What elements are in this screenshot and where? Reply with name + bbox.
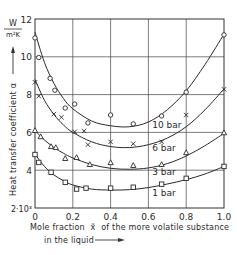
- y-tick-label: 8: [26, 90, 32, 100]
- circle-marker-icon: [37, 55, 41, 59]
- x-tick-label: 0.2: [66, 212, 80, 222]
- fitted-curves: [35, 32, 224, 190]
- triangle-marker-icon: [131, 163, 136, 168]
- triangle-marker-icon: [159, 162, 164, 167]
- curve-6-bar: [35, 79, 224, 147]
- x-label-symbol: x̃: [91, 223, 96, 232]
- x-tick-label: 0: [32, 212, 38, 222]
- series-label: 6 bar: [152, 143, 176, 153]
- cross-marker-icon: [131, 142, 135, 146]
- square-marker-icon: [63, 180, 67, 184]
- triangle-marker-icon: [32, 128, 37, 133]
- square-marker-icon: [131, 185, 135, 189]
- circle-marker-icon: [53, 88, 57, 92]
- triangle-marker-icon: [108, 160, 113, 165]
- triangle-marker-icon: [74, 155, 79, 160]
- circle-marker-icon: [131, 122, 135, 126]
- x-axis-arrow-icon: [95, 238, 125, 242]
- series-label: 1 bar: [152, 188, 176, 198]
- square-marker-icon: [49, 170, 53, 174]
- y-tick-label: 12: [21, 15, 32, 25]
- square-marker-icon: [108, 186, 112, 190]
- x-axis-label-line1: Mole fraction x̃ of the more volatile su…: [30, 223, 229, 232]
- triangle-marker-icon: [63, 156, 68, 161]
- cross-marker-icon: [86, 142, 90, 146]
- y-tick-label: 6: [26, 128, 32, 138]
- curve-3-bar: [35, 131, 224, 170]
- y-axis-unit: W m²K: [4, 19, 22, 39]
- y-unit-numerator: W: [9, 19, 17, 28]
- y-unit-denominator: m²K: [6, 31, 21, 39]
- circle-marker-icon: [33, 36, 37, 40]
- x-label-rest: of the more volatile substance: [101, 223, 229, 232]
- square-marker-icon: [84, 186, 88, 190]
- circle-marker-icon: [184, 90, 188, 94]
- circle-marker-icon: [159, 114, 163, 118]
- square-marker-icon: [159, 182, 163, 186]
- y-tick-label: 2·10³: [11, 205, 32, 214]
- x-tick-label: 0.4: [103, 212, 118, 222]
- series-label: 3 bar: [152, 167, 176, 177]
- x-tick-label: 1.0: [217, 212, 232, 222]
- series-label: 10 bar: [152, 120, 182, 130]
- y-tick-label: 10: [21, 52, 33, 62]
- circle-marker-icon: [48, 76, 52, 80]
- x-tick-label: 0.8: [179, 212, 194, 222]
- x-label-start: Mole fraction: [30, 223, 85, 232]
- curve-10-bar: [35, 32, 224, 127]
- axis-tick-labels: 00.20.40.60.81.02·10³4681012: [11, 15, 231, 223]
- square-marker-icon: [184, 176, 188, 180]
- square-marker-icon: [37, 160, 41, 164]
- heat-transfer-chart: 00.20.40.60.81.02·10³4681012 10 bar6 bar…: [0, 0, 237, 255]
- x-tick-label: 0.6: [141, 212, 156, 222]
- circle-marker-icon: [108, 113, 112, 117]
- circle-marker-icon: [222, 33, 226, 37]
- circle-marker-icon: [63, 106, 67, 110]
- cross-marker-icon: [52, 112, 56, 116]
- circle-marker-icon: [72, 102, 76, 106]
- x-axis-label-line2: in the liquid: [44, 236, 94, 245]
- square-marker-icon: [74, 187, 78, 191]
- y-axis-arrow-icon: [11, 46, 15, 74]
- cross-marker-icon: [59, 115, 63, 119]
- square-marker-icon: [222, 164, 226, 168]
- square-marker-icon: [33, 152, 37, 156]
- circle-marker-icon: [86, 121, 90, 125]
- y-tick-label: 4: [26, 166, 32, 176]
- y-axis-label: Heat transfer coefficient α: [9, 83, 18, 196]
- triangle-marker-icon: [184, 150, 189, 155]
